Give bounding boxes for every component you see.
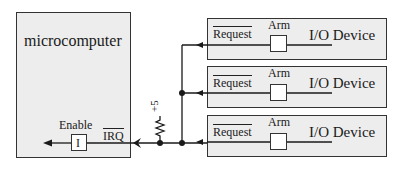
junction-dot-icon [157,140,163,146]
junction-dot-icon [179,140,185,146]
wiring [0,0,402,170]
device-1-arrow-icon [196,42,203,48]
output-arrow-icon [43,140,52,147]
device-3-arrow-icon [196,139,203,145]
junction-dot-icon [179,90,185,96]
device-2-arrow-icon [196,90,203,96]
pullup-resistor-icon [156,116,164,143]
